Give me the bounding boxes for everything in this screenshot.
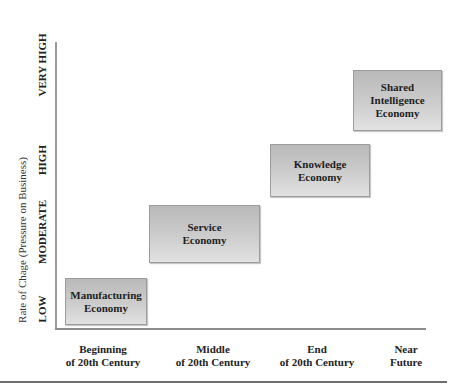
x-tick-line2: of 20th Century [66,356,141,369]
box-label-line1: Manufacturing [70,289,142,302]
box-label-line2: Intelligence [370,94,424,107]
box-label-line2: Economy [294,171,347,184]
x-tick-near-future: Near Future [390,343,422,369]
x-tick-line1: End [280,343,355,356]
x-tick-line1: Near [390,343,422,356]
box-label-line1: Knowledge [294,158,347,171]
y-tick-very-high: VERY HIGH [36,33,48,96]
x-tick-line1: Beginning [66,343,141,356]
y-tick-low: LOW [36,296,48,323]
x-axis-line [55,328,426,330]
y-tick-moderate: MODERATE [36,200,48,264]
bottom-rule [0,381,447,383]
x-tick-beginning-20th-century: Beginning of 20th Century [66,343,141,369]
box-label-line2: Economy [70,302,142,315]
box-label-line1: Shared [370,81,424,94]
box-label-line2: Economy [183,234,227,247]
box-manufacturing-economy: Manufacturing Economy [65,278,147,325]
x-tick-middle-20th-century: Middle of 20th Century [176,343,251,369]
x-tick-line2: of 20th Century [176,356,251,369]
y-tick-high: HIGH [36,145,48,175]
x-tick-line2: Future [390,356,422,369]
y-axis-title: Rate of Chage (Pressure on Business) [16,157,28,323]
box-service-economy: Service Economy [149,205,260,263]
box-knowledge-economy: Knowledge Economy [270,144,370,197]
box-shared-intelligence-economy: Shared Intelligence Economy [353,70,442,131]
x-tick-end-20th-century: End of 20th Century [280,343,355,369]
box-label-line1: Service [183,221,227,234]
y-axis-line [55,42,57,330]
x-tick-line1: Middle [176,343,251,356]
box-label-line3: Economy [370,107,424,120]
x-tick-line2: of 20th Century [280,356,355,369]
